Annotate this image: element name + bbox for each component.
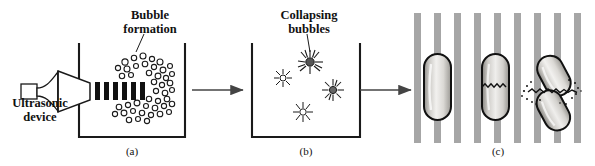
cell-ruptured <box>521 51 582 135</box>
collapsing-bubble <box>293 102 313 122</box>
cavitation-cell-lysis-figure: Ultrasonic device Bubble formation Colla… <box>0 0 595 166</box>
collapsing-bubbles <box>274 50 344 122</box>
panel-label-b: (b) <box>286 145 326 157</box>
collapsing-bubbles-label: Collapsing bubbles <box>263 9 355 36</box>
bubble-formation-label-line1: Bubble <box>106 9 194 23</box>
ultrasonic-device-label: Ultrasonic device <box>0 97 80 124</box>
cell-cracked <box>482 54 509 120</box>
ultrasonic-device-label-line2: device <box>0 111 80 125</box>
bubble-formation-label-line2: formation <box>106 23 194 37</box>
collapsing-bubbles-label-line1: Collapsing <box>263 9 355 23</box>
panel-label-a: (a) <box>112 145 152 157</box>
collapsing-bubble <box>322 79 344 101</box>
wave-bars <box>95 82 145 100</box>
bubble-formation-label: Bubble formation <box>106 9 194 36</box>
ultrasonic-device-label-line1: Ultrasonic <box>0 97 80 111</box>
panel-label-c: (c) <box>478 145 518 157</box>
collapsing-label-leader <box>307 34 310 52</box>
collapsing-bubble <box>274 69 292 87</box>
cell-intact <box>424 54 451 120</box>
collapsing-bubble <box>298 50 323 74</box>
collapsing-bubbles-label-line2: bubbles <box>263 23 355 37</box>
bubble-label-leader <box>136 34 144 52</box>
